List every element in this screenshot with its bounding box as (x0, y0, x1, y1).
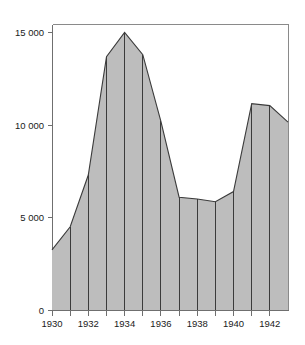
y-tick-label-5000: 5 000 (20, 212, 44, 223)
chart-root: 15 000 10 000 5 000 0 (0, 0, 305, 345)
x-tick-label-1942: 1942 (259, 318, 280, 329)
x-tick-label-1940: 1940 (223, 318, 244, 329)
x-tick-label-1938: 1938 (187, 318, 208, 329)
y-tick-label-15000: 15 000 (15, 27, 44, 38)
x-tick-label-1932: 1932 (78, 318, 99, 329)
area-chart: 15 000 10 000 5 000 0 (0, 0, 305, 345)
x-tick-label-1936: 1936 (150, 318, 171, 329)
x-tick-label-1934: 1934 (114, 318, 135, 329)
y-tick-label-0: 0 (39, 305, 44, 316)
y-tick-label-10000: 10 000 (15, 120, 44, 131)
x-tick-label-1930: 1930 (41, 318, 62, 329)
